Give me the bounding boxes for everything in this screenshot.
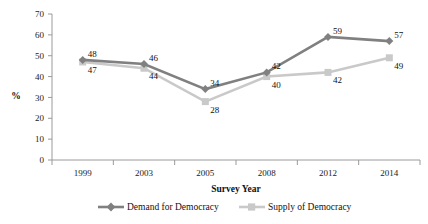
- data-label: 44: [149, 71, 159, 81]
- data-label: 28: [210, 105, 220, 115]
- diamond-marker-icon: [201, 85, 209, 93]
- diamond-marker-icon: [107, 203, 116, 212]
- data-label: 40: [272, 80, 282, 90]
- legend-label-supply: Supply of Democracy: [268, 202, 352, 212]
- y-tick-label-70: 70: [35, 9, 45, 19]
- chart-legend: Demand for Democracy Supply of Democracy: [98, 202, 352, 212]
- square-marker-icon: [202, 98, 209, 105]
- y-tick-label-50: 50: [35, 51, 45, 61]
- x-tick-marks: [52, 160, 420, 165]
- legend-item-demand-for-democracy[interactable]: Demand for Democracy: [98, 202, 219, 212]
- data-label: 47: [88, 65, 98, 75]
- x-tick-label-1999: 1999: [74, 168, 93, 178]
- x-axis-title: Survey Year: [211, 184, 261, 194]
- data-label: 59: [333, 26, 343, 36]
- square-marker-icon: [386, 54, 393, 61]
- data-label: 42: [272, 61, 281, 71]
- y-tick-label-20: 20: [35, 113, 45, 123]
- chart-container: 0 10 20 30 40 50 60 70 % 1999 2003 2005 …: [0, 0, 428, 224]
- data-label: 48: [88, 49, 98, 59]
- y-tick-label-10: 10: [35, 134, 45, 144]
- x-tick-label-2012: 2012: [319, 168, 337, 178]
- y-tick-label-0: 0: [40, 155, 45, 165]
- diamond-marker-icon: [385, 37, 393, 45]
- y-tick-label-60: 60: [35, 30, 45, 40]
- data-label: 49: [394, 61, 404, 71]
- x-tick-label-2008: 2008: [258, 168, 277, 178]
- data-label: 34: [210, 78, 220, 88]
- y-tick-label-30: 30: [35, 93, 45, 103]
- y-tick-marks: [48, 14, 52, 160]
- y-tick-label-40: 40: [35, 72, 45, 82]
- legend-item-supply-of-democracy[interactable]: Supply of Democracy: [239, 202, 352, 212]
- demand-line: [83, 37, 390, 89]
- supply-data-labels: 474428404249: [88, 61, 404, 115]
- x-tick-label-2005: 2005: [196, 168, 215, 178]
- data-label: 46: [149, 53, 159, 63]
- data-label: 57: [394, 30, 404, 40]
- y-axis-title: %: [11, 91, 21, 101]
- line-chart: 0 10 20 30 40 50 60 70 % 1999 2003 2005 …: [0, 0, 428, 224]
- series-demand-for-democracy: 484634425957: [79, 26, 404, 93]
- square-marker-icon: [325, 69, 332, 76]
- x-tick-label-2003: 2003: [135, 168, 154, 178]
- x-tick-label-2014: 2014: [380, 168, 399, 178]
- data-label: 42: [333, 75, 342, 85]
- legend-label-demand: Demand for Democracy: [127, 202, 219, 212]
- square-marker-icon: [248, 203, 255, 210]
